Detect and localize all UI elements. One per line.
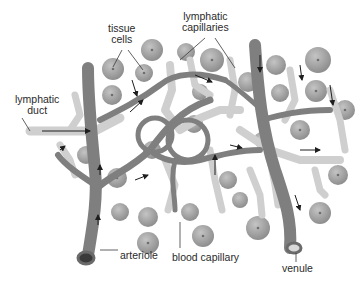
- venule-opening: [287, 243, 301, 253]
- label-text: capillaries: [182, 22, 229, 33]
- label-text: duct: [15, 105, 59, 116]
- lymphatic-system-diagram: tissue cells lymphatic capillaries lymph…: [0, 0, 363, 282]
- diagram-illustration: [0, 0, 363, 282]
- label-blood-capillary: blood capillary: [172, 252, 239, 263]
- tissue-cells: [77, 39, 355, 254]
- label-lymphatic-capillaries: lymphatic capillaries: [182, 11, 229, 33]
- label-text: cells: [108, 34, 135, 45]
- arteriole-opening: [78, 252, 94, 264]
- label-venule: venule: [282, 263, 313, 274]
- label-lymphatic-duct: lymphatic duct: [15, 94, 59, 116]
- label-arteriole: arteriole: [120, 250, 158, 261]
- label-tissue-cells: tissue cells: [108, 23, 135, 45]
